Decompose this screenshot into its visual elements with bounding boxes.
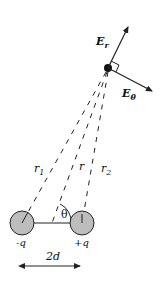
er-label: Er (95, 35, 109, 50)
negative-charge-label: -q (16, 237, 26, 248)
separation-label: 2d (45, 250, 60, 263)
er-arrow (108, 27, 128, 68)
r1-label: r1 (34, 162, 44, 177)
theta-label: θ (61, 208, 68, 221)
r-label: r (79, 160, 85, 173)
r2-line (82, 72, 108, 223)
r2-label: r2 (101, 162, 111, 177)
dipole-diagram: Er Eθ r1 r r2 θ -q +q 2d (0, 0, 167, 293)
positive-charge-label: +q (74, 237, 89, 248)
etheta-label: Eθ (121, 87, 136, 102)
r1-line (22, 72, 106, 223)
r-line (52, 72, 107, 223)
